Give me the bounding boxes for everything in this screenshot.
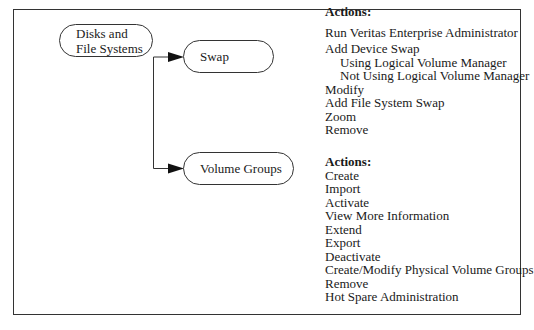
action-item: Modify: [325, 83, 529, 97]
node-volume-groups: Volume Groups: [183, 152, 294, 185]
action-subitem: Using Logical Volume Manager: [325, 56, 529, 70]
arrowhead-volume-groups: [168, 164, 184, 174]
node-disks-and-file-systems: Disks and File Systems: [59, 24, 153, 57]
node-label: Volume Groups: [200, 161, 282, 176]
swap-actions-list: Actions: Run Veritas Enterprise Administ…: [325, 5, 529, 137]
action-item: Add Device Swap: [325, 42, 529, 56]
arrowhead-swap: [168, 52, 184, 62]
action-item: Add File System Swap: [325, 96, 529, 110]
node-swap: Swap: [183, 40, 274, 73]
action-item: Create: [325, 169, 534, 183]
action-item: Import: [325, 182, 534, 196]
action-item: Create/Modify Physical Volume Groups: [325, 263, 534, 277]
action-item: Run Veritas Enterprise Administrator: [325, 26, 529, 40]
action-item: Remove: [325, 277, 534, 291]
node-label-line1: Disks and: [76, 26, 143, 41]
action-item: Deactivate: [325, 250, 534, 264]
action-item: Activate: [325, 196, 534, 210]
node-label: Swap: [200, 49, 229, 64]
action-item: Remove: [325, 123, 529, 137]
action-item: Export: [325, 236, 534, 250]
action-item: Hot Spare Administration: [325, 290, 534, 304]
action-item: Extend: [325, 223, 534, 237]
volume-group-actions-list: Actions: Create Import Activate View Mor…: [325, 155, 534, 304]
action-item: View More Information: [325, 209, 534, 223]
node-label-line2: File Systems: [76, 41, 143, 56]
action-item: Zoom: [325, 110, 529, 124]
actions-heading: Actions:: [325, 5, 529, 19]
actions-heading: Actions:: [325, 155, 534, 169]
action-subitem: Not Using Logical Volume Manager: [325, 69, 529, 83]
